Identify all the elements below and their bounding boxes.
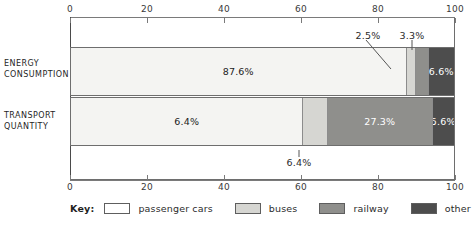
bar-segment-transport-passenger-cars: 6.4% — [71, 98, 303, 145]
bar-segment-label-transport-railway: 27.3% — [364, 116, 395, 127]
bar-row-energy-consumption: 87.6%6.6% — [70, 47, 455, 96]
tick-label-top-20: 20 — [141, 4, 153, 14]
tick-bottom-60 — [301, 175, 302, 180]
tick-label-bottom-20: 20 — [141, 182, 153, 192]
callout-energy-railway: 3.3% — [400, 30, 425, 41]
legend-swatch-buses — [235, 203, 261, 214]
tick-label-top-80: 80 — [372, 4, 384, 14]
bar-segment-transport-railway: 27.3% — [328, 98, 433, 145]
tick-label-top-0: 0 — [67, 4, 73, 14]
axis-bottom-line — [70, 180, 455, 181]
legend-swatch-railway — [319, 203, 345, 214]
tick-bottom-100 — [455, 175, 456, 180]
bar-segment-energy-passenger-cars: 87.6% — [71, 48, 407, 95]
row-label-transport-line2: QUANTITY — [4, 121, 68, 132]
row-label-transport-line1: TRANSPORT — [4, 110, 68, 121]
bar-segment-label-energy-other: 6.6% — [429, 66, 454, 77]
legend-item-buses[interactable]: buses — [235, 203, 298, 214]
legend-label-passenger-cars: passenger cars — [138, 203, 212, 214]
tick-top-80 — [378, 18, 379, 23]
legend-label-other: other — [445, 203, 471, 214]
legend-items: passenger carsbusesrailwayother — [104, 203, 476, 214]
legend-label-railway: railway — [353, 203, 388, 214]
tick-top-40 — [224, 18, 225, 23]
tick-bottom-40 — [224, 175, 225, 180]
legend-item-railway[interactable]: railway — [319, 203, 388, 214]
tick-top-60 — [301, 18, 302, 23]
tick-top-0 — [70, 18, 71, 23]
callout-transport-buses: 6.4% — [287, 157, 312, 168]
bar-segment-energy-railway — [416, 48, 429, 95]
bar-segment-transport-other: 5.6% — [433, 98, 454, 145]
tick-label-bottom-40: 40 — [218, 182, 230, 192]
tick-label-bottom-60: 60 — [295, 182, 307, 192]
tick-label-bottom-80: 80 — [372, 182, 384, 192]
row-label-transport-quantity: TRANSPORT QUANTITY — [4, 110, 68, 132]
legend-swatch-other — [411, 203, 437, 214]
legend-item-other[interactable]: other — [411, 203, 471, 214]
legend-item-passenger-cars[interactable]: passenger cars — [104, 203, 212, 214]
chart-legend: Key: passenger carsbusesrailwayother — [70, 198, 455, 218]
tick-top-20 — [147, 18, 148, 23]
row-label-energy-line1: ENERGY — [4, 58, 68, 69]
callout-energy-buses: 2.5% — [356, 30, 381, 41]
bar-segment-label-transport-passenger-cars: 6.4% — [174, 116, 199, 127]
legend-label-buses: buses — [269, 203, 298, 214]
bar-segment-label-energy-passenger-cars: 87.6% — [223, 66, 254, 77]
row-label-energy-line2: CONSUMPTION — [4, 69, 68, 80]
tick-bottom-0 — [70, 175, 71, 180]
tick-bottom-80 — [378, 175, 379, 180]
row-label-energy-consumption: ENERGY CONSUMPTION — [4, 58, 68, 80]
tick-top-100 — [455, 18, 456, 23]
tick-bottom-20 — [147, 175, 148, 180]
bar-segment-transport-buses — [303, 98, 328, 145]
legend-key-label: Key: — [70, 203, 94, 214]
tick-label-bottom-0: 0 — [67, 182, 73, 192]
bar-segment-energy-buses — [407, 48, 417, 95]
tick-label-top-40: 40 — [218, 4, 230, 14]
bar-row-transport-quantity: 6.4%27.3%5.6% — [70, 97, 455, 146]
tick-label-bottom-100: 100 — [446, 182, 464, 192]
axis-top-line — [70, 17, 455, 18]
tick-label-top-60: 60 — [295, 4, 307, 14]
bar-segment-energy-other: 6.6% — [429, 48, 454, 95]
legend-swatch-passenger-cars — [104, 203, 130, 214]
tick-label-top-100: 100 — [446, 4, 464, 14]
bar-segment-label-transport-other: 5.6% — [433, 116, 454, 127]
